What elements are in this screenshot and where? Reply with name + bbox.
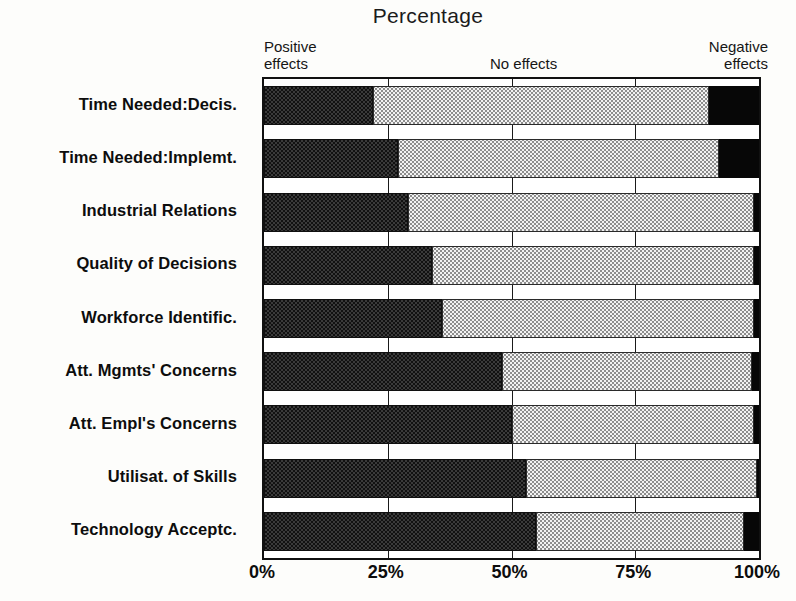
bar-row: [264, 405, 759, 444]
category-label: Time Needed:Implemt.: [0, 147, 237, 166]
bar-segment-none: [502, 352, 752, 391]
category-label: Utilisat. of Skills: [0, 467, 237, 486]
legend-positive-effects: Positive effects: [264, 38, 317, 72]
bar-segment-neg: [754, 246, 759, 285]
bar-row: [264, 193, 759, 232]
x-tick-label: 25%: [368, 562, 404, 583]
bar-row: [264, 459, 759, 498]
bar-row: [264, 352, 759, 391]
category-label: Time Needed:Decis.: [0, 94, 237, 113]
category-label: Quality of Decisions: [0, 254, 237, 273]
category-label: Workforce Identific.: [0, 307, 237, 326]
x-tick-label: 0%: [249, 562, 275, 583]
bar-segment-none: [432, 246, 754, 285]
bar-segment-pos: [264, 512, 536, 551]
bar-segment-neg: [754, 193, 759, 232]
bar-series-container: [264, 79, 759, 558]
x-tick-label: 100%: [734, 562, 780, 583]
bar-segment-neg: [754, 299, 759, 338]
legend-no-effects: No effects: [490, 55, 557, 72]
x-axis-tick-labels: 0%25%50%75%100%: [262, 562, 757, 592]
category-label: Att. Empl's Concerns: [0, 413, 237, 432]
x-tick-label: 50%: [491, 562, 527, 583]
bar-row: [264, 246, 759, 285]
bar-segment-none: [373, 86, 710, 125]
x-tick-label: 75%: [615, 562, 651, 583]
category-axis-labels: Time Needed:Decis.Time Needed:Implemt.In…: [0, 77, 250, 556]
bar-segment-none: [512, 405, 755, 444]
bar-row: [264, 512, 759, 551]
bar-segment-pos: [264, 193, 408, 232]
bar-segment-neg: [757, 459, 759, 498]
chart-page: Percentage Positive effects No effects N…: [0, 0, 796, 601]
bar-segment-pos: [264, 459, 526, 498]
bar-segment-pos: [264, 139, 398, 178]
category-label: Technology Acceptc.: [0, 520, 237, 539]
bar-segment-neg: [754, 405, 759, 444]
page-title: Percentage: [0, 4, 796, 28]
bar-segment-pos: [264, 299, 442, 338]
category-label: Att. Mgmts' Concerns: [0, 360, 237, 379]
plot-area: [262, 77, 761, 560]
legend-negative-effects: Negative effects: [709, 38, 768, 72]
bar-row: [264, 86, 759, 125]
category-label: Industrial Relations: [0, 201, 237, 220]
bar-segment-pos: [264, 405, 512, 444]
bar-segment-none: [526, 459, 756, 498]
bar-segment-none: [398, 139, 720, 178]
bar-row: [264, 299, 759, 338]
bar-segment-neg: [709, 86, 759, 125]
bar-segment-pos: [264, 352, 502, 391]
bar-segment-pos: [264, 246, 432, 285]
bar-segment-none: [536, 512, 744, 551]
bar-segment-none: [408, 193, 755, 232]
bar-segment-pos: [264, 86, 373, 125]
bar-segment-neg: [744, 512, 759, 551]
bar-row: [264, 139, 759, 178]
bar-segment-none: [442, 299, 754, 338]
bar-segment-neg: [752, 352, 759, 391]
bar-segment-neg: [719, 139, 759, 178]
